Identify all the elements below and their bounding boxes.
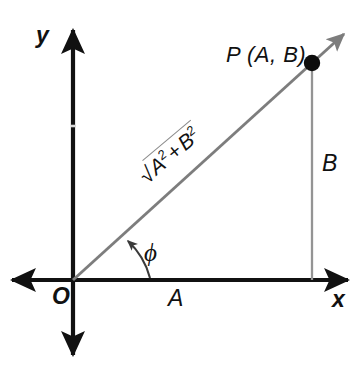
leg-b-label: B [322,152,337,175]
y-axis-label: y [36,24,49,47]
point-p-dot [304,55,320,71]
leg-a-label: A [168,287,183,310]
origin-label: O [52,285,70,308]
hypotenuse-ray [73,34,344,280]
x-axis-label: x [332,288,345,311]
angle-phi-label: ϕ [144,240,157,265]
diagram-canvas: y x O P (A, B) A B ϕ √A2+B2 [0,0,360,383]
point-p-label: P (A, B) [226,44,306,66]
